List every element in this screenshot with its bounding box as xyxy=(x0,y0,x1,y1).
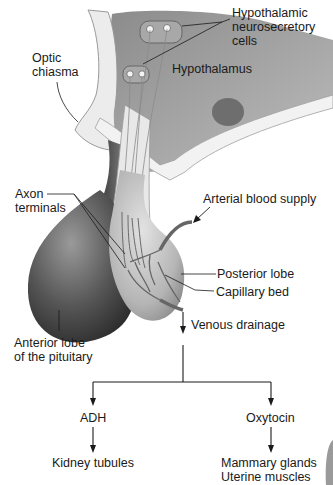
hormone-adh: ADH xyxy=(80,411,106,425)
page-edge-element xyxy=(326,440,333,485)
flowchart-arrowheads xyxy=(90,326,274,453)
target-kidney-tubules: Kidney tubules xyxy=(52,456,134,470)
label-posterior-lobe: Posterior lobe xyxy=(217,267,294,281)
label-hypothalamus: Hypothalamus xyxy=(172,62,252,76)
label-capillary-bed: Capillary bed xyxy=(216,285,289,299)
label-optic-chiasma: Optic chiasma xyxy=(32,51,79,79)
label-anterior-lobe: Anterior lobe of the pituitary xyxy=(14,336,93,364)
label-hypothalamic-cells: Hypothalamic neurosecretory cells xyxy=(232,6,315,48)
target-uterine-muscles: Uterine muscles xyxy=(221,470,311,484)
label-venous-drainage: Venous drainage xyxy=(191,318,285,332)
label-arterial-blood-supply: Arterial blood supply xyxy=(203,192,316,206)
arterial-arrow xyxy=(193,207,210,223)
target-mammary-glands: Mammary glands xyxy=(221,456,317,470)
hormone-oxytocin: Oxytocin xyxy=(246,411,295,425)
label-axon-terminals: Axon terminals xyxy=(15,187,66,215)
flowchart-lines xyxy=(93,312,271,446)
